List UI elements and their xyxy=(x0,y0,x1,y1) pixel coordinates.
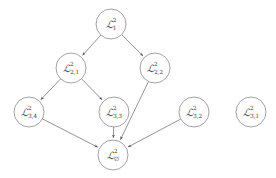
graph-node[interactable]: ℒ2∅ xyxy=(98,140,128,170)
graph-node[interactable]: ℒ22,1 xyxy=(56,53,86,83)
graph-edge xyxy=(41,79,61,100)
node-circle xyxy=(99,97,129,127)
graph-node[interactable]: ℒ23,3 xyxy=(99,97,129,127)
graph-edge xyxy=(122,35,143,56)
edges-layer xyxy=(41,35,181,148)
nodes-layer: ℒ21ℒ22,1ℒ22,2ℒ23,4ℒ23,3ℒ23,2ℒ23,1ℒ2∅ xyxy=(14,9,266,170)
graph-node[interactable]: ℒ23,1 xyxy=(236,97,266,127)
graph-node[interactable]: ℒ21 xyxy=(96,9,126,39)
node-circle xyxy=(179,97,209,127)
graph-canvas: ℒ21ℒ22,1ℒ22,2ℒ23,4ℒ23,3ℒ23,2ℒ23,1ℒ2∅ xyxy=(0,0,276,178)
node-circle xyxy=(140,53,170,83)
graph-node[interactable]: ℒ23,4 xyxy=(14,97,44,127)
graph-edge xyxy=(83,35,101,55)
graph-node[interactable]: ℒ23,2 xyxy=(179,97,209,127)
node-circle xyxy=(56,53,86,83)
node-circle xyxy=(14,97,44,127)
lattice-diagram: ℒ21ℒ22,1ℒ22,2ℒ23,4ℒ23,3ℒ23,2ℒ23,1ℒ2∅ xyxy=(0,0,276,178)
graph-node[interactable]: ℒ22,2 xyxy=(140,53,170,83)
node-circle xyxy=(236,97,266,127)
graph-edge xyxy=(42,119,97,147)
graph-edge xyxy=(81,79,102,100)
graph-edge xyxy=(128,119,181,147)
